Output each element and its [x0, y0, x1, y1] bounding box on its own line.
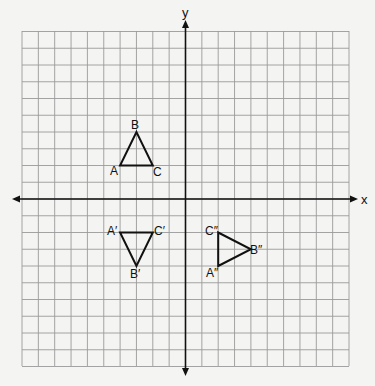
axes [12, 20, 358, 376]
vertex-label-C-prime: C′ [154, 224, 166, 238]
vertex-label-B-prime: B′ [130, 267, 141, 281]
vertex-label-B-double-prime: B″ [250, 243, 263, 257]
vertex-label-A: A [110, 164, 118, 178]
x-axis-left-arrow-icon [12, 196, 20, 203]
vertex-label-B: B [131, 118, 139, 132]
coordinate-plane: x y A B C A′ C′ B′ C″ B″ A″ [0, 0, 375, 386]
vertex-label-A-prime: A′ [107, 224, 118, 238]
x-axis-right-arrow-icon [350, 196, 358, 203]
y-axis-up-arrow-icon [182, 20, 189, 28]
vertex-label-C: C [153, 165, 162, 179]
y-axis-label: y [182, 5, 189, 20]
coordinate-plane-diagram: x y A B C A′ C′ B′ C″ B″ A″ [0, 0, 375, 386]
vertex-label-A-double-prime: A″ [206, 266, 219, 280]
vertex-label-C-double-prime: C″ [205, 224, 219, 238]
x-axis-label: x [361, 192, 368, 207]
y-axis-down-arrow-icon [182, 368, 189, 376]
